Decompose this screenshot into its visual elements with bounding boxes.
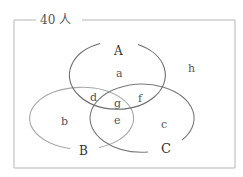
set-c-label: C	[161, 141, 171, 156]
total-count-title: 40 人	[40, 13, 71, 27]
region-a-label: a	[116, 67, 123, 80]
venn-diagram: 40 人 A B C a b c d e f g h	[0, 0, 243, 177]
region-h-label: h	[188, 62, 195, 75]
region-e-label: e	[114, 114, 121, 127]
region-f-label: f	[138, 92, 143, 105]
region-c-label: c	[161, 118, 167, 131]
region-g-label: g	[114, 97, 121, 110]
region-b-label: b	[61, 115, 68, 128]
set-b-label: B	[79, 144, 88, 158]
set-a-label: A	[113, 44, 123, 58]
region-d-label: d	[90, 91, 97, 104]
universal-set-frame	[14, 20, 235, 168]
